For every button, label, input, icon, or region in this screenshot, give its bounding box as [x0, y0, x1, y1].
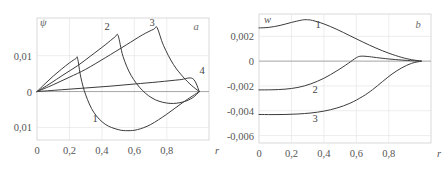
panel-b-plot: 00,20,40,60,8r0,0020-0,002-0,004-0,006wb… [222, 0, 444, 171]
curve-label-3: 3 [312, 113, 317, 124]
panel-a-plot: 00,20,40,60,8r0,0100,01ψa1234 [0, 0, 222, 171]
curve-label-3: 3 [149, 17, 154, 28]
x-tick-label: 0,6 [350, 148, 363, 159]
y-tick-label: 0 [249, 56, 254, 67]
y-tick-label: 0,002 [230, 31, 254, 42]
x-tick-label: 0 [256, 148, 261, 159]
curve-label-2: 2 [312, 84, 317, 95]
x-tick-label: 0,8 [160, 145, 173, 156]
y-tick-label: -0,004 [227, 106, 255, 117]
curve-label-4: 4 [199, 65, 205, 76]
y-tick-label: -0,002 [227, 81, 254, 92]
curve-label-2: 2 [104, 21, 109, 32]
y-axis-label: w [264, 14, 271, 25]
y-tick-label: 0 [27, 87, 32, 98]
x-axis-label: r [437, 148, 442, 159]
x-axis-label: r [215, 145, 220, 156]
x-tick-label: 0,4 [317, 148, 331, 159]
curve-label-1: 1 [315, 19, 320, 30]
x-tick-label: 0 [34, 145, 39, 156]
y-axis-label: ψ [40, 17, 47, 28]
x-tick-label: 0,2 [63, 145, 76, 156]
curve-1 [259, 20, 421, 61]
y-tick-label: 0,01 [14, 122, 32, 133]
curve-label-1: 1 [92, 113, 97, 124]
curve-4 [37, 78, 199, 92]
figure-container: 00,20,40,60,8r0,0100,01ψa1234 00,20,40,6… [0, 0, 444, 171]
x-tick-label: 0,6 [128, 145, 141, 156]
panel-a: 00,20,40,60,8r0,0100,01ψa1234 [0, 0, 222, 171]
panel-label: a [193, 21, 198, 32]
x-tick-label: 0,4 [95, 145, 109, 156]
x-tick-label: 0,2 [285, 148, 298, 159]
panel-label: b [415, 19, 420, 30]
curve-1 [37, 57, 199, 131]
panel-b: 00,20,40,60,8r0,0020-0,002-0,004-0,006wb… [222, 0, 444, 171]
y-tick-label: -0,006 [227, 131, 254, 142]
y-tick-label: 0,01 [14, 51, 32, 62]
x-tick-label: 0,8 [382, 148, 395, 159]
